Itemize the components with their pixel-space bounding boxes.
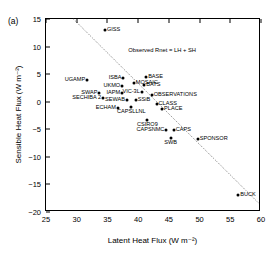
data-point-label: ISBA [109,75,122,81]
x-tick-label-55: 55 [226,210,234,224]
y-tick-mark [46,184,50,185]
x-axis-label: Latent Heat Flux (W m⁻²) [45,236,260,245]
x-tick-mark [168,19,169,23]
x-tick-mark [199,19,200,23]
y-tick-mark [46,74,50,75]
data-point-label: CAPSLLNL [117,109,146,115]
x-tick-label-35: 35 [103,210,111,224]
y-tick-label-5: 5 [37,70,46,79]
x-tick-mark [138,19,139,23]
data-point-label: SECHIBA 2 [72,96,101,102]
data-point-label: BUCK [240,193,256,199]
data-point [140,91,143,94]
y-axis-label: Sensible Heat Flux (W m⁻²) [14,15,23,215]
x-tick-label-25: 25 [42,210,50,224]
data-point-label: OBSERVATIONS [154,92,197,98]
x-tick-mark [261,19,262,23]
x-tick-mark [230,19,231,23]
data-point-label: UGAMP [65,77,86,83]
data-point [165,128,168,131]
x-tick-label-30: 30 [73,210,81,224]
y-tick-label-10: 10 [33,42,46,51]
data-point [122,77,125,80]
data-point-label: SPONSOR [200,136,228,142]
data-point-label: CAPSNMC [136,127,164,133]
x-tick-mark [107,19,108,23]
data-point-label: BATS [146,82,160,88]
x-tick-label-45: 45 [165,210,173,224]
y-tick-label--10: −10 [28,152,46,161]
y-tick-mark [46,46,50,47]
y-tick-mark [46,19,50,20]
data-point [121,84,124,87]
data-point-label: SEWAB [105,97,125,103]
y-tick-label-0: 0 [37,97,46,106]
y-tick-mark [46,156,50,157]
data-point-label: ECHAM [96,105,116,111]
x-tick-mark [76,19,77,23]
data-point [86,78,89,81]
x-tick-mark [46,19,47,23]
y-tick-mark [46,101,50,102]
y-tick-label--15: −15 [28,180,46,189]
data-point-label: SWB [164,140,177,146]
reference-line-annotation: Observed Rnet = LH + SH [128,47,196,53]
x-tick-label-40: 40 [134,210,142,224]
data-point-label: PLACE [164,106,182,112]
data-point [126,98,129,101]
data-point-label: VIC-3L [122,90,139,96]
y-tick-label-15: 15 [33,15,46,24]
data-point-label: SSiB [138,97,150,103]
figure-panel: (a) Observed Rnet = LH + SH 151050−5−10−… [0,0,280,273]
scatter-plot-area: Observed Rnet = LH + SH 151050−5−10−15−2… [45,18,260,211]
data-point-label: CAPS [176,127,191,133]
x-tick-label-50: 50 [195,210,203,224]
data-point-label: GISS [107,27,120,33]
y-tick-label--5: −5 [32,125,46,134]
x-tick-label-60: 60 [257,210,265,224]
y-tick-mark [46,129,50,130]
data-point-label: UKMO [103,83,120,89]
